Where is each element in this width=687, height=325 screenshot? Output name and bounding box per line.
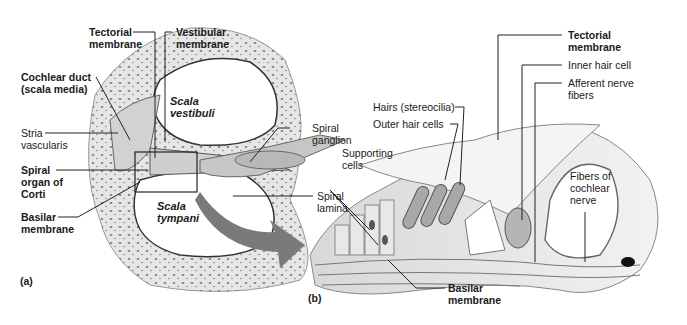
label-tectorial-membrane-b: Tectorialmembrane bbox=[568, 29, 621, 53]
label-scala-vestibuli: Scalavestibuli bbox=[170, 95, 215, 119]
label-afferent-nerve-fibers: Afferent nervefibers bbox=[568, 77, 634, 101]
label-spiral-ganglion: Spiralganglion bbox=[312, 122, 352, 146]
label-basilar-membrane-b: Basilarmembrane bbox=[448, 282, 501, 306]
label-basilar-membrane-a: Basilarmembrane bbox=[21, 211, 74, 235]
nucleus bbox=[621, 257, 635, 267]
label-supporting-cells: Supportingcells bbox=[342, 147, 393, 171]
panel-label-b: (b) bbox=[308, 292, 321, 304]
label-stria-vascularis: Striavascularis bbox=[21, 127, 68, 151]
label-spiral-organ: Spiralorgan ofCorti bbox=[21, 164, 63, 200]
label-fibers-cochlear-nerve: Fibers ofcochlearnerve bbox=[570, 170, 611, 206]
label-vestibular-membrane: Vestibularmembrane bbox=[176, 26, 229, 50]
label-spiral-lamina: Spirallamina bbox=[317, 190, 348, 214]
label-hairs-stereocilia: Hairs (stereocilia) bbox=[373, 101, 455, 113]
panel-label-a: (a) bbox=[20, 275, 33, 287]
panel-a-cochlea bbox=[89, 28, 345, 292]
label-tectorial-membrane-a: Tectorialmembrane bbox=[89, 26, 142, 50]
label-scala-tympani: Scalatympani bbox=[157, 200, 199, 224]
label-cochlear-duct: Cochlear duct(scala media) bbox=[21, 71, 91, 95]
label-inner-hair-cell: Inner hair cell bbox=[568, 59, 631, 71]
label-outer-hair-cells: Outer hair cells bbox=[373, 118, 444, 130]
